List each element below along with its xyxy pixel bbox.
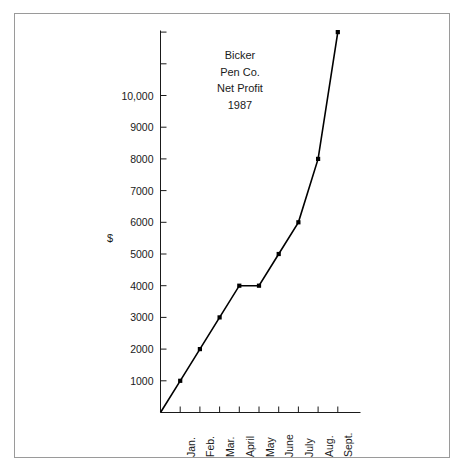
x-axis-tick-label: June: [283, 434, 295, 457]
y-axis-tick-label: 4000: [130, 280, 153, 292]
x-axis-tick-label: Sept.: [342, 432, 354, 457]
chart-title-block: Bicker Pen Co. Net Profit 1987: [186, 47, 294, 113]
x-axis-tick-label: July: [303, 438, 315, 457]
x-axis-tick-label: Mar.: [224, 436, 236, 456]
x-axis-tick-label: April: [244, 435, 256, 456]
y-axis-tick-label: 9000: [130, 121, 153, 133]
y-axis-tick-label: 7000: [130, 185, 153, 197]
y-axis-tick-label: 3000: [130, 311, 153, 323]
title-line-3: Net Profit: [186, 80, 294, 97]
y-axis-tick-label: 5000: [130, 248, 153, 260]
y-axis-tick-label: 6000: [130, 216, 153, 228]
y-axis-label: $: [100, 232, 120, 244]
y-axis-tick-label: 2000: [130, 343, 153, 355]
title-line-4: 1987: [186, 97, 294, 114]
x-axis-tick-label: Jan.: [185, 437, 197, 457]
x-axis-tick-label: Aug.: [323, 435, 335, 457]
x-axis-tick-label: May: [264, 437, 276, 457]
y-axis-tick-label: 8000: [130, 153, 153, 165]
x-axis-tick-label: Feb.: [204, 435, 216, 456]
title-line-2: Pen Co.: [186, 64, 294, 81]
chart-page: $ Bicker Pen Co. Net Profit 1987 1000200…: [0, 0, 465, 474]
y-axis-tick-label: 10,000: [121, 90, 153, 102]
title-line-1: Bicker: [186, 47, 294, 64]
y-axis-tick-label: 1000: [130, 375, 153, 387]
